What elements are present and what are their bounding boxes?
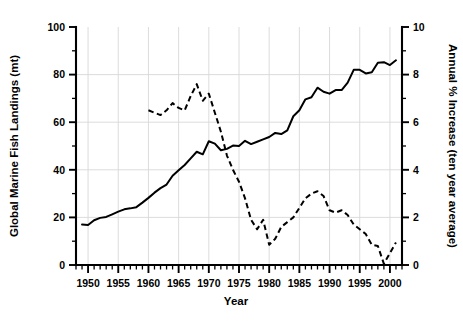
chart-figure: 020406080100 0246810 1950195519601965197… [0, 0, 463, 321]
x-axis-title: Year [224, 295, 249, 307]
tick-label-bottom: 1950 [76, 277, 100, 289]
right-axis-tick-labels: 0246810 [413, 21, 425, 271]
tick-label-right: 2 [413, 211, 419, 223]
tick-label-bottom: 1955 [107, 277, 131, 289]
tick-label-right: 8 [413, 68, 419, 80]
bottom-axis-tick-labels: 1950195519601965197019751980198519901995… [76, 277, 401, 289]
tick-label-bottom: 1975 [227, 277, 251, 289]
tick-label-bottom: 2000 [378, 277, 402, 289]
tick-label-bottom: 1980 [258, 277, 282, 289]
tick-label-left: 40 [53, 164, 65, 176]
tick-label-left: 60 [53, 116, 65, 128]
tick-label-bottom: 1970 [197, 277, 221, 289]
bottom-axis-ticks [76, 265, 402, 273]
left-axis-tick-labels: 020406080100 [47, 21, 65, 271]
tick-label-bottom: 1985 [288, 277, 312, 289]
tick-label-right: 6 [413, 116, 419, 128]
tick-label-bottom: 1990 [318, 277, 342, 289]
tick-label-right: 0 [413, 259, 419, 271]
tick-label-right: 4 [413, 164, 419, 176]
tick-label-bottom: 1965 [167, 277, 191, 289]
tick-label-left: 100 [47, 21, 65, 33]
line-chart-canvas: 020406080100 0246810 1950195519601965197… [0, 0, 463, 321]
tick-label-left: 80 [53, 68, 65, 80]
tick-label-bottom: 1995 [348, 277, 372, 289]
y-left-axis-title: Global Marine Fish Landings (mt) [8, 55, 20, 237]
series-annual-percent-increase [148, 84, 396, 264]
tick-label-left: 20 [53, 211, 65, 223]
tick-label-left: 0 [59, 259, 65, 271]
y-right-axis-title: Annual % Increase (ten year average) [447, 44, 459, 248]
tick-label-right: 10 [413, 21, 425, 33]
tick-label-bottom: 1960 [137, 277, 161, 289]
